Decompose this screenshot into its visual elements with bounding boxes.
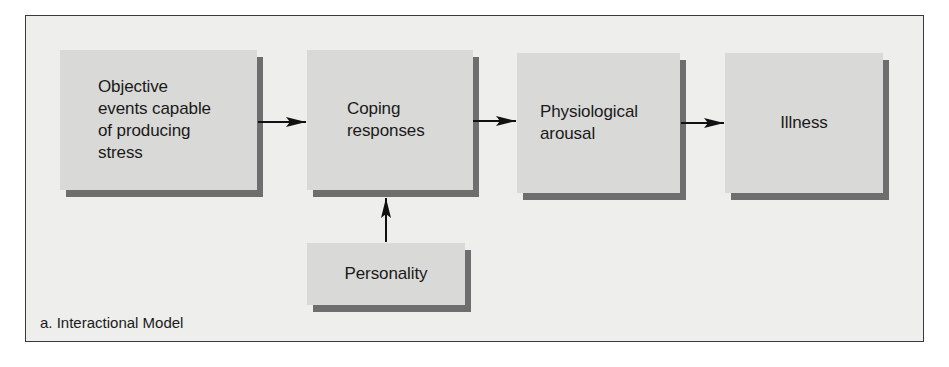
node-label: Personality bbox=[345, 263, 428, 285]
node-coping-responses: Coping responses bbox=[307, 50, 473, 190]
figure-caption: a. Interactional Model bbox=[40, 314, 183, 331]
node-objective-events: Objective events capable of producing st… bbox=[60, 50, 257, 190]
node-label: Coping responses bbox=[347, 98, 425, 142]
node-label: Physiological arousal bbox=[540, 101, 638, 145]
node-label: Objective events capable of producing st… bbox=[98, 76, 211, 164]
node-illness: Illness bbox=[725, 53, 883, 193]
node-physiological-arousal: Physiological arousal bbox=[517, 53, 680, 193]
node-personality: Personality bbox=[307, 243, 465, 305]
node-label: Illness bbox=[780, 112, 828, 134]
